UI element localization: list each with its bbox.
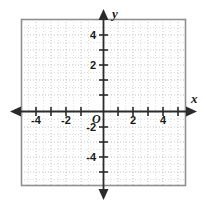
x-tick-label-neg2: -2: [58, 115, 74, 126]
x-tick-label-neg4: -4: [28, 115, 44, 126]
y-tick-label-neg4: -4: [76, 152, 96, 163]
x-tick-label-4: 4: [156, 115, 170, 126]
x-tick-label-2: 2: [126, 115, 140, 126]
y-tick-label-neg2: -2: [76, 122, 96, 133]
coordinate-grid-svg: [0, 0, 206, 204]
y-tick-label-2: 2: [82, 60, 96, 71]
x-axis-label: x: [191, 92, 198, 105]
coordinate-plane-figure: y x O -4 -2 2 4 4 2 -2 -4: [0, 0, 206, 204]
y-axis-down-arrow: [99, 189, 109, 200]
y-tick-label-4: 4: [82, 30, 96, 41]
y-axis-up-arrow: [99, 9, 109, 20]
y-axis-label: y: [112, 7, 118, 20]
x-axis-left-arrow: [10, 107, 21, 117]
x-axis-right-arrow: [186, 107, 197, 117]
